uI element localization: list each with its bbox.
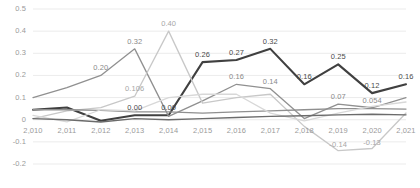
x-axis-tick: 2,013 [120,126,150,135]
data-label: 0.14 [257,77,283,86]
y-axis-tick: 0.1 [2,93,26,102]
data-label: 0.07 [325,92,351,101]
data-label: 0.106 [122,84,148,93]
x-axis-tick: 2,019 [323,126,353,135]
y-axis-tick: -0.1 [2,137,26,146]
data-label: 0.16 [223,72,249,81]
x-axis-tick: 2,015 [188,126,218,135]
y-axis-tick: 0.2 [2,70,26,79]
data-label: -0.14 [325,140,351,149]
x-axis-tick: 2,021 [391,126,420,135]
y-axis-tick: 0.4 [2,26,26,35]
data-label: 0.26 [190,50,216,59]
x-axis-tick: 2,016 [221,126,251,135]
data-label: 0.16 [393,72,419,81]
y-axis-tick: 0 [2,115,26,124]
data-label: 0.00 [122,103,148,112]
data-label: 0.32 [122,37,148,46]
data-label: 0.32 [257,37,283,46]
y-axis-tick: -0.2 [2,159,26,168]
data-label: 0.12 [359,81,385,90]
y-axis-tick: 0.3 [2,48,26,57]
data-label: 0.27 [223,48,249,57]
data-label: 0.00 [156,103,182,112]
data-label: 0.20 [88,63,114,72]
x-axis-tick: 2,012 [86,126,116,135]
x-axis-tick: 2,020 [357,126,387,135]
data-label: -0.13 [359,138,385,147]
data-label: 0.16 [291,72,317,81]
x-axis-tick: 2,010 [18,126,48,135]
x-axis-tick: 2,011 [52,126,82,135]
data-label: 0.25 [325,52,351,61]
y-axis-tick: 0.5 [2,4,26,13]
data-label: 0.054 [359,96,385,105]
x-axis-tick: 2,014 [154,126,184,135]
x-axis-tick: 2,018 [289,126,319,135]
x-axis-tick: 2,017 [255,126,285,135]
data-label: 0.40 [156,19,182,28]
